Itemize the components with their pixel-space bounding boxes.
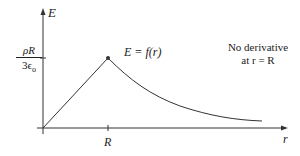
annotation-line-2: at r = R	[218, 54, 298, 67]
y-tick-numerator: ρR	[16, 44, 42, 58]
annotation: No derivative at r = R	[218, 41, 298, 67]
plot-canvas	[0, 0, 300, 156]
y-axis-label: E	[48, 6, 56, 19]
x-tick-label: R	[104, 136, 111, 148]
annotation-line-1: No derivative	[218, 41, 298, 54]
y-axis-arrow-icon	[41, 8, 46, 15]
denominator-subscript: o	[32, 65, 36, 74]
x-axis-label: r	[283, 133, 288, 145]
y-tick-label: ρR 3ϵo	[16, 44, 42, 74]
y-tick-denominator: 3ϵo	[16, 58, 42, 74]
x-axis-arrow-icon	[281, 126, 288, 131]
peak-point	[106, 56, 110, 60]
denominator-text: 3ϵ	[22, 59, 32, 71]
curve-label: E = f(r)	[124, 46, 161, 58]
curve-decay-segment	[108, 58, 262, 121]
curve-linear-segment	[43, 58, 108, 128]
